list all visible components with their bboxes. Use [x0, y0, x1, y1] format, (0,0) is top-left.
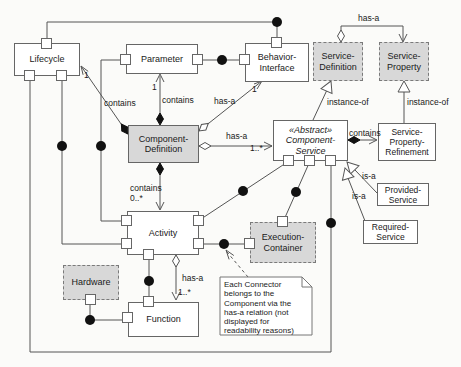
ball-connector-icon: [217, 55, 227, 65]
edge-label-isa: is-a: [352, 191, 366, 201]
port-activity-bottom: [143, 249, 154, 260]
class-label: Hardware: [71, 277, 110, 288]
class-label: Behavior-: [258, 52, 297, 63]
ball-connector-icon: [238, 186, 248, 196]
edge-label-multiplicity: 0..*: [130, 193, 143, 203]
edge-label-multiplicity: 1: [252, 84, 257, 94]
aggregation-diamond-icon: [199, 143, 211, 150]
port-componentservice-3: [325, 155, 336, 166]
port-parameter-left: [120, 54, 131, 65]
edge-hasa-serviceproperty: [341, 26, 403, 42]
ball-connector-icon: [291, 187, 301, 197]
edge-label-multiplicity: 1: [152, 82, 157, 92]
ball-connector-icon: [219, 239, 229, 249]
edge-lifecycle-to-behaviorinterface: [47, 22, 277, 38]
class-label: Service: [376, 232, 404, 242]
edge-label-instanceof: instance-of: [327, 97, 369, 107]
edge-label-multiplicity: 1..*: [178, 287, 191, 297]
edge-label-hasa: has-a: [226, 131, 247, 141]
uml-metamodel-diagram: Lifecycle Parameter Behavior- Interface …: [0, 0, 461, 367]
class-label: Component-: [139, 134, 189, 145]
class-label: Provided-: [385, 185, 421, 195]
edge-label-hasa: has-a: [214, 96, 235, 106]
class-activity: Activity: [127, 211, 199, 255]
ball-connector-icon: [272, 17, 282, 27]
edge-label-contains: contains: [162, 95, 194, 105]
class-label: Component-: [286, 135, 336, 146]
ball-connector-icon: [96, 141, 106, 151]
class-label: Function: [146, 314, 181, 325]
note-line: Each Connector: [224, 280, 310, 289]
port-behaviorinterface-top: [271, 37, 282, 48]
class-execution-container: Execution- Container: [250, 222, 316, 263]
ball-connector-icon: [326, 218, 336, 228]
class-service-definition: Service- Definition: [313, 42, 363, 81]
class-label: Service-: [391, 127, 422, 137]
port-behaviorinterface-left: [239, 54, 250, 65]
class-component-definition: Component- Definition: [128, 125, 199, 163]
ball-connector-icon: [57, 141, 67, 151]
class-required-service: Required- Service: [363, 220, 418, 244]
ball-connector-icon: [144, 276, 154, 286]
edge-label-instanceof: instance-of: [407, 97, 449, 107]
edge-label-multiplicity: 1: [84, 70, 89, 80]
class-label: Execution-: [262, 232, 305, 243]
edge-label-contains: contains: [104, 98, 136, 108]
class-label: Service-: [321, 51, 354, 62]
note-line: belongs to the: [224, 289, 310, 298]
note-comment: Each Connector belongs to the Component …: [224, 280, 310, 336]
note-line: displayed for: [224, 317, 310, 326]
port-lifecycle-bottom2: [56, 70, 67, 81]
edge-label-hasa: has-a: [182, 273, 203, 283]
class-label: Definition: [145, 144, 183, 155]
note-line: has-a relation (not: [224, 308, 310, 317]
class-label: Property-: [390, 137, 425, 147]
class-label: Parameter: [141, 54, 183, 65]
edge-label-contains: contains: [349, 128, 381, 138]
composition-diamond-icon: [157, 163, 164, 175]
edge-label-hasa: has-a: [358, 13, 379, 23]
class-provided-service: Provided- Service: [377, 183, 429, 206]
port-activity-left-bottom: [121, 238, 132, 249]
edge-note-to-connector: [227, 252, 248, 277]
class-label: Refinement: [385, 147, 428, 157]
ball-connector-icon: [85, 315, 95, 325]
note-line: Component via the: [224, 299, 310, 308]
port-componentservice-1: [283, 155, 294, 166]
port-executioncontainer-left: [244, 238, 255, 249]
note-line: readability reasons): [224, 326, 310, 335]
class-label: Service-: [387, 51, 420, 62]
class-behavior-interface: Behavior- Interface: [245, 43, 309, 82]
edge-parameter-to-activity: [101, 60, 127, 221]
stereotype-label: «Abstract»: [289, 125, 332, 136]
generalization-triangle-icon: [398, 81, 410, 92]
port-function-top: [143, 296, 154, 307]
edge-label-contains: contains: [130, 183, 162, 193]
port-executioncontainer-top: [277, 216, 288, 227]
class-function: Function: [128, 302, 199, 337]
class-label: Service: [389, 195, 417, 205]
class-label: Property: [387, 62, 421, 73]
port-activity-right-bottom: [193, 238, 204, 249]
port-activity-right-top: [193, 215, 204, 226]
class-label: Activity: [149, 228, 178, 239]
port-lifecycle-bottom1: [24, 70, 35, 81]
edge-label-multiplicity: 1..*: [250, 143, 263, 153]
class-service-property-refinement: Service- Property- Refinement: [378, 123, 436, 161]
class-service-property: Service- Property: [379, 42, 429, 81]
edge-label-isa: is-a: [362, 171, 376, 181]
port-componentservice-2: [304, 155, 315, 166]
class-label: Container: [263, 243, 302, 254]
aggregation-diamond-icon: [338, 30, 345, 42]
port-parameter-right: [192, 54, 203, 65]
port-activity-left-top: [121, 215, 132, 226]
port-hardware-bottom: [85, 294, 96, 305]
class-parameter: Parameter: [126, 44, 198, 74]
edge-instanceof-servicedefinition: [313, 91, 327, 120]
port-function-left: [122, 312, 133, 323]
class-label: Interface: [259, 63, 294, 74]
class-label: Definition: [319, 62, 357, 73]
class-label: Required-: [372, 222, 409, 232]
port-lifecycle-top: [41, 38, 52, 49]
class-label: Lifecycle: [29, 54, 64, 65]
